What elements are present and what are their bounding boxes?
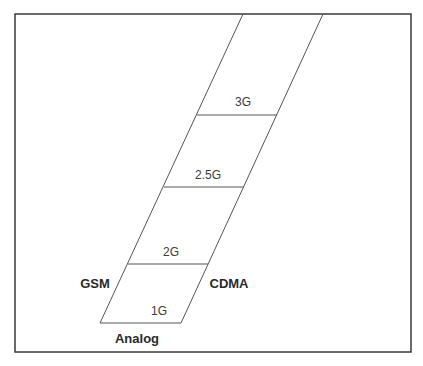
technology-label-gsm: GSM (80, 277, 110, 290)
generation-label-2g: 2G (163, 246, 179, 258)
diagram-frame (15, 14, 411, 352)
technology-label-analog: Analog (115, 332, 159, 345)
diagram-lines (0, 0, 423, 366)
diagram-canvas: 3G 2.5G 2G 1G GSM CDMA Analog (0, 0, 423, 366)
generation-label-3g: 3G (235, 96, 251, 108)
generation-label-1g: 1G (151, 305, 167, 317)
generation-label-2-5g: 2.5G (195, 169, 221, 181)
technology-label-cdma: CDMA (210, 277, 249, 290)
